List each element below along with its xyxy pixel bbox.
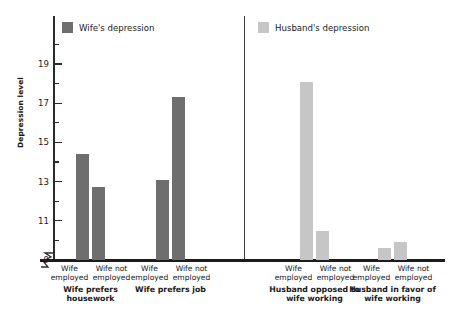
- y-tick-major: [53, 142, 62, 143]
- y-tick-label: 11: [25, 216, 49, 226]
- category-label-line: Wife: [129, 264, 171, 273]
- category-label-line: Wife not: [393, 264, 435, 273]
- y-tick-minor: [53, 83, 59, 84]
- group-title: Wife prefers job: [119, 285, 223, 295]
- category-label: Wifeemployed: [273, 264, 315, 283]
- y-tick-minor: [53, 44, 59, 45]
- category-label-line: employed: [393, 273, 435, 282]
- legend-label-husband: Husband's depression: [275, 23, 369, 33]
- group-title-line: Husband in favor of: [341, 285, 445, 295]
- legend-label-wife: Wife's depression: [79, 23, 154, 33]
- group-title-line: wife working: [341, 294, 445, 304]
- bar: [92, 187, 105, 260]
- y-tick-major: [53, 63, 62, 64]
- grouped-bar-chart: Depression level 91113151719 Wife's depr…: [0, 0, 459, 330]
- y-tick-minor: [53, 122, 59, 123]
- group-title-line: housework: [39, 294, 143, 304]
- y-tick-minor: [53, 161, 59, 162]
- y-tick-major: [53, 181, 62, 182]
- panel-divider: [244, 16, 245, 260]
- legend-swatch-husband: [258, 22, 269, 33]
- category-label: Wife notemployed: [171, 264, 213, 283]
- bar: [378, 248, 391, 260]
- x-axis-group: WifeemployedWife notemployedWife prefers…: [119, 264, 223, 294]
- y-axis-title: Depression level: [16, 63, 25, 163]
- y-tick-label: 19: [25, 59, 49, 69]
- bar: [172, 97, 185, 260]
- category-row: WifeemployedWife notemployed: [341, 264, 445, 283]
- legend-wife: Wife's depression: [62, 22, 154, 33]
- category-label-line: employed: [171, 273, 213, 282]
- y-axis-line: [53, 16, 55, 260]
- bar: [76, 154, 89, 260]
- category-label: Wifeemployed: [129, 264, 171, 283]
- bar: [300, 82, 313, 260]
- y-tick-label: 13: [25, 177, 49, 187]
- category-label-line: Wife not: [171, 264, 213, 273]
- category-label-line: employed: [273, 273, 315, 282]
- category-label-line: employed: [351, 273, 393, 282]
- bar: [316, 231, 329, 260]
- group-title-line: Wife prefers job: [119, 285, 223, 295]
- category-row: WifeemployedWife notemployed: [119, 264, 223, 283]
- x-axis-group: WifeemployedWife notemployedHusband in f…: [341, 264, 445, 304]
- legend-husband: Husband's depression: [258, 22, 369, 33]
- category-label: Wifeemployed: [351, 264, 393, 283]
- category-label-line: Wife: [351, 264, 393, 273]
- category-label-line: employed: [129, 273, 171, 282]
- y-tick-major: [53, 103, 62, 104]
- bar: [394, 242, 407, 260]
- y-tick-label: 15: [25, 137, 49, 147]
- y-tick-label: 17: [25, 98, 49, 108]
- y-tick-minor: [53, 240, 59, 241]
- y-tick-minor: [53, 201, 59, 202]
- category-label: Wifeemployed: [49, 264, 91, 283]
- category-label: Wife notemployed: [393, 264, 435, 283]
- category-label-line: employed: [49, 273, 91, 282]
- legend-swatch-wife: [62, 22, 73, 33]
- category-label-line: Wife: [273, 264, 315, 273]
- y-tick-major: [53, 220, 62, 221]
- category-label-line: Wife: [49, 264, 91, 273]
- group-title: Husband in favor ofwife working: [341, 285, 445, 304]
- bar: [156, 180, 169, 260]
